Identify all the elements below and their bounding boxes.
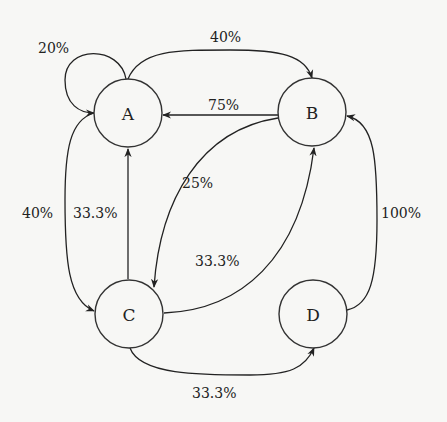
edge-c-a-label: 33.3% [73,205,117,221]
node-d: D [279,280,347,348]
edge-c-d-label: 33.3% [192,385,236,401]
edge-d-b [347,116,377,310]
node-c: C [95,280,163,348]
edge-c-b-label: 33.3% [195,253,239,269]
node-a: A [94,79,162,147]
edge-d-b-label: 100% [381,205,421,221]
node-b: B [278,78,346,146]
edge-a-b-label: 40% [210,29,241,45]
node-d-label: D [306,305,320,325]
edge-c-d [130,348,314,375]
edge-a-a-label: 20% [38,40,69,56]
edge-a-c-label: 40% [22,205,53,221]
edge-b-c-label: 25% [182,175,213,191]
edge-a-b [128,50,312,79]
node-a-label: A [121,104,135,124]
node-b-label: B [306,103,319,123]
state-diagram: A B C D 20% 40% 75% 25% 40% 33.3% 33.3% … [0,0,447,422]
node-c-label: C [122,305,135,325]
edge-b-a-label: 75% [208,97,239,113]
